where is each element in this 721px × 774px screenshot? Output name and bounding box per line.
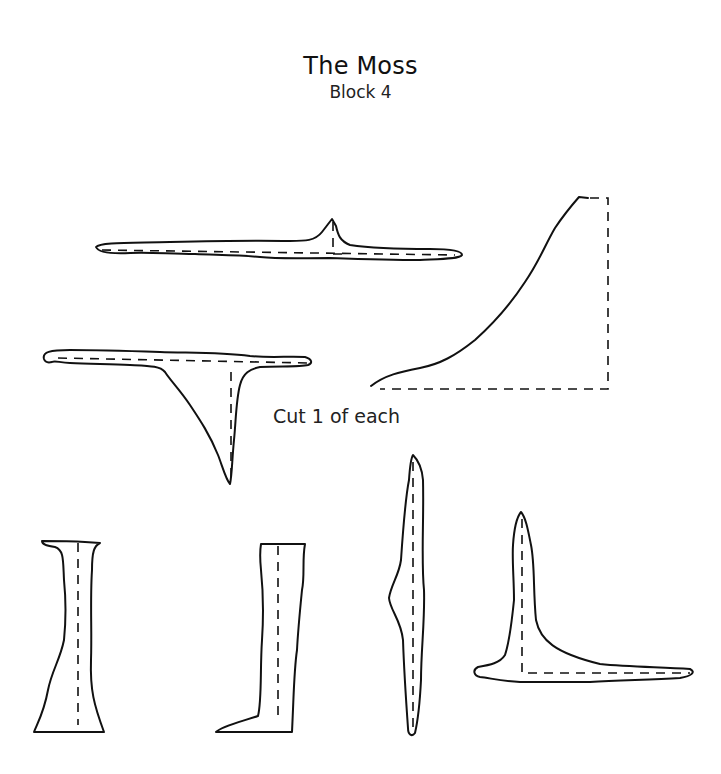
pattern-piece-strip-peak [96, 219, 462, 260]
pattern-piece-flared-column [34, 541, 104, 732]
pattern-piece-boot [216, 544, 305, 732]
pattern-pieces [0, 0, 721, 774]
pattern-piece-curve-corner [371, 197, 608, 389]
pattern-piece-l-shape [474, 512, 692, 682]
pattern-piece-t-drop [44, 350, 311, 484]
pattern-piece-sliver [389, 455, 424, 735]
